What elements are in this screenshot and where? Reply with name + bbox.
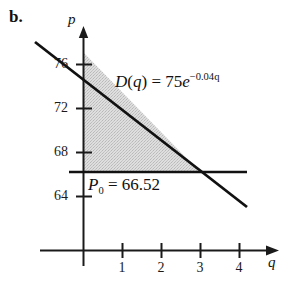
x-tick-label-4: 4 bbox=[231, 261, 247, 275]
x-axis-label: q bbox=[268, 255, 276, 270]
demand-equals-sign: = bbox=[151, 72, 161, 91]
price-symbol: P bbox=[88, 175, 98, 194]
y-axis-label: p bbox=[68, 12, 76, 27]
y-tick-label-76: 76 bbox=[42, 57, 68, 71]
demand-equation-label: D(q) = 75e−0.04q bbox=[115, 73, 219, 90]
demand-exponent: −0.04q bbox=[190, 71, 220, 82]
y-tick-label-72: 72 bbox=[42, 101, 68, 115]
demand-curve-figure: b. p q bbox=[0, 0, 285, 287]
x-tick-label-1: 1 bbox=[114, 261, 130, 275]
x-tick-label-2: 2 bbox=[153, 261, 169, 275]
demand-coefficient: 75 bbox=[165, 72, 182, 91]
graph-canvas bbox=[0, 0, 285, 287]
demand-function-name: D bbox=[115, 72, 127, 91]
price-value: 66.52 bbox=[122, 175, 160, 194]
consumer-surplus-shaded-region bbox=[84, 53, 200, 172]
x-tick-label-3: 3 bbox=[192, 261, 208, 275]
y-axis-arrowhead bbox=[79, 26, 88, 38]
price-equals-sign: = bbox=[108, 175, 118, 194]
equilibrium-price-label: P0 = 66.52 bbox=[88, 176, 160, 193]
y-tick-label-64: 64 bbox=[42, 189, 68, 203]
y-tick-label-68: 68 bbox=[42, 145, 68, 159]
demand-base: e bbox=[182, 72, 190, 91]
